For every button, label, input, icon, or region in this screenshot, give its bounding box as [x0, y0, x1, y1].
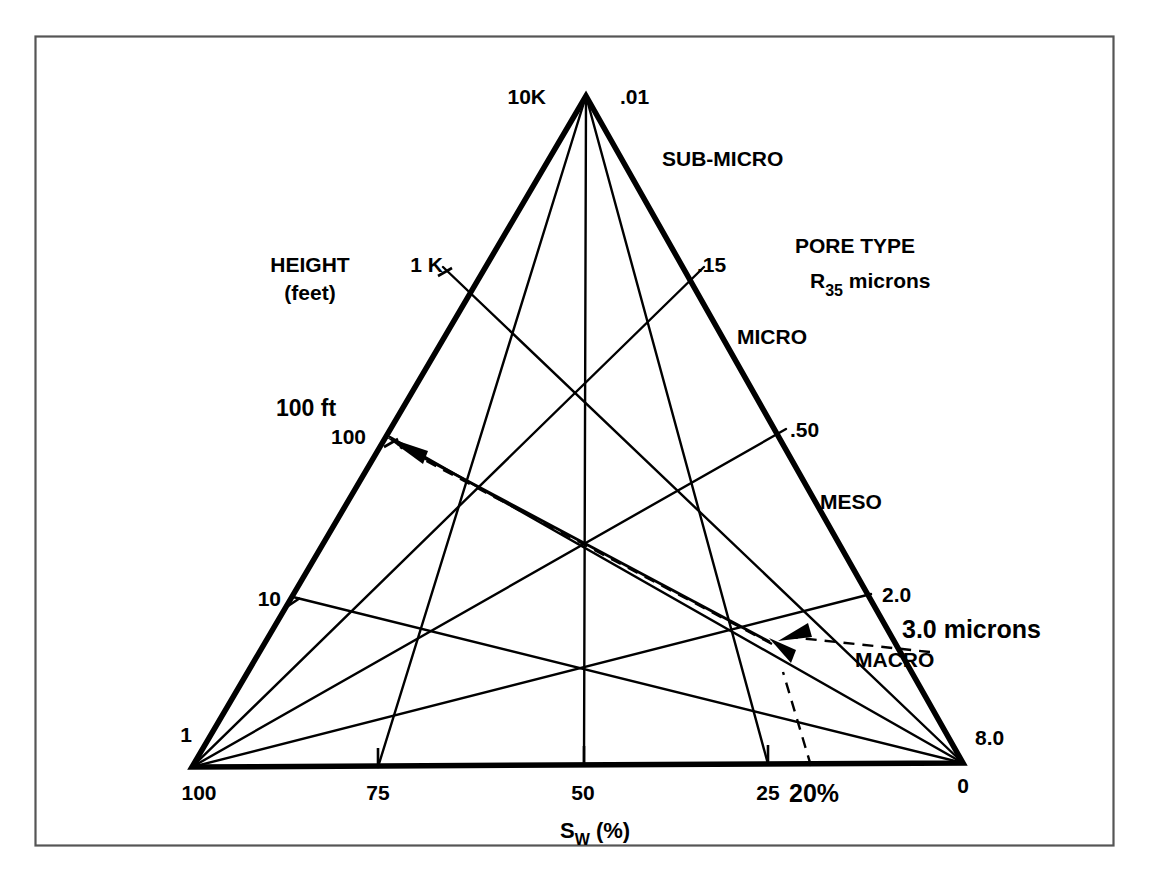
bottom-tick-100: 100 [181, 781, 216, 804]
pore-band-sub-micro: SUB-MICRO [662, 147, 783, 170]
bottom-tick-25: 25 [756, 781, 780, 804]
r35-subscript: 35 [825, 282, 843, 299]
figure-frame [36, 37, 1114, 846]
right-tick-015: .15 [697, 253, 727, 276]
ternary-diagram: HEIGHT (feet) PORE TYPE R35 microns SW (… [0, 0, 1149, 869]
left-tick-10k: 10K [507, 85, 546, 108]
sw-base: S [560, 818, 575, 843]
r35-units: microns [843, 269, 931, 292]
pore-band-micro: MICRO [737, 325, 807, 348]
bottom-tick-75: 75 [366, 781, 390, 804]
left-axis-subtitle: (feet) [284, 281, 335, 304]
sw-units: (%) [590, 818, 630, 843]
left-tick-1k: 1 K [410, 253, 443, 276]
right-tick-050: .50 [790, 418, 819, 441]
right-axis-title: PORE TYPE [795, 234, 915, 257]
right-tick-20: 2.0 [882, 583, 911, 606]
figure-canvas: HEIGHT (feet) PORE TYPE R35 microns SW (… [0, 0, 1149, 869]
pore-band-macro: MACRO [855, 648, 934, 671]
annotation-20-percent: 20% [789, 779, 839, 807]
bottom-tick-50: 50 [571, 781, 594, 804]
sw-subscript: W [575, 831, 591, 848]
bottom-tick-0: 0 [957, 774, 969, 797]
left-tick-10: 10 [258, 587, 281, 610]
annotation-3-microns: 3.0 microns [902, 615, 1041, 643]
right-tick-001: .01 [620, 85, 650, 108]
left-tick-1: 1 [180, 723, 192, 746]
annotation-100-ft: 100 ft [276, 395, 336, 421]
left-axis-title: HEIGHT [270, 253, 350, 276]
right-tick-80: 8.0 [975, 726, 1004, 749]
pore-band-meso: MESO [820, 490, 882, 513]
left-tick-100: 100 [331, 425, 366, 448]
r35-base: R [810, 269, 825, 292]
